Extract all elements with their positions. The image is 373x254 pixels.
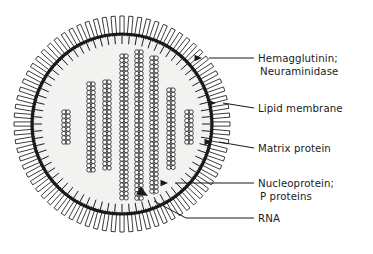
nucleoprotein-bead bbox=[124, 174, 128, 178]
nucleoprotein-bead bbox=[150, 60, 154, 64]
nucleoprotein-bead bbox=[124, 58, 128, 62]
nucleoprotein-bead bbox=[150, 77, 154, 81]
nucleoprotein-bead bbox=[171, 88, 175, 92]
nucleoprotein-bead bbox=[185, 119, 189, 123]
rnp-helix bbox=[150, 55, 159, 195]
nucleoprotein-bead bbox=[107, 84, 111, 88]
nucleoprotein-bead bbox=[139, 97, 143, 101]
nucleoprotein-bead bbox=[91, 129, 95, 133]
figure-page: Hemagglutinin;NeuraminidaseLipid membran… bbox=[0, 0, 373, 254]
nucleoprotein-bead bbox=[135, 63, 139, 67]
nucleoprotein-bead bbox=[107, 136, 111, 140]
nucleoprotein-bead bbox=[124, 187, 128, 191]
nucleoprotein-bead bbox=[87, 125, 91, 129]
nucleoprotein-bead bbox=[139, 54, 143, 58]
nucleoprotein-bead bbox=[124, 106, 128, 110]
nucleoprotein-bead bbox=[139, 123, 143, 127]
nucleoprotein-bead bbox=[139, 50, 143, 54]
rnp-helix bbox=[185, 109, 194, 145]
nucleoprotein-bead bbox=[135, 132, 139, 136]
nucleoprotein-bead bbox=[91, 146, 95, 150]
nucleoprotein-bead bbox=[66, 123, 70, 127]
nucleoprotein-bead bbox=[167, 114, 171, 118]
nucleoprotein-bead bbox=[103, 136, 107, 140]
nucleoprotein-bead bbox=[62, 131, 66, 135]
nucleoprotein-bead bbox=[154, 168, 158, 172]
nucleoprotein-bead bbox=[135, 157, 139, 161]
nucleoprotein-bead bbox=[167, 122, 171, 126]
nucleoprotein-bead bbox=[135, 149, 139, 153]
nucleoprotein-bead bbox=[139, 196, 143, 200]
nucleoprotein-bead bbox=[135, 170, 139, 174]
nucleoprotein-bead bbox=[167, 109, 171, 113]
nucleoprotein-bead bbox=[189, 110, 193, 114]
nucleoprotein-bead bbox=[139, 153, 143, 157]
nucleoprotein-bead bbox=[139, 71, 143, 75]
nucleoprotein-bead bbox=[66, 136, 70, 140]
nucleoprotein-bead bbox=[87, 82, 91, 86]
nucleoprotein-bead bbox=[167, 135, 171, 139]
nucleoprotein-bead bbox=[150, 82, 154, 86]
nucleoprotein-bead bbox=[91, 82, 95, 86]
nucleoprotein-bead bbox=[87, 86, 91, 90]
nucleoprotein-bead bbox=[103, 114, 107, 118]
nucleoprotein-bead bbox=[107, 123, 111, 127]
nucleoprotein-bead bbox=[87, 146, 91, 150]
nucleoprotein-bead bbox=[120, 71, 124, 75]
nucleoprotein-bead bbox=[150, 181, 154, 185]
nucleoprotein-bead bbox=[185, 127, 189, 131]
nucleoprotein-bead bbox=[154, 108, 158, 112]
nucleoprotein-bead bbox=[87, 155, 91, 159]
nucleoprotein-bead bbox=[91, 138, 95, 142]
nucleoprotein-bead bbox=[124, 118, 128, 122]
nucleoprotein-bead bbox=[103, 89, 107, 93]
nucleoprotein-bead bbox=[135, 67, 139, 71]
nucleoprotein-bead bbox=[66, 140, 70, 144]
nucleoprotein-bead bbox=[103, 140, 107, 144]
nucleoprotein-bead bbox=[120, 131, 124, 135]
nucleoprotein-bead bbox=[139, 59, 143, 63]
nucleoprotein-bead bbox=[107, 89, 111, 93]
nucleoprotein-bead bbox=[62, 127, 66, 131]
nucleoprotein-bead bbox=[120, 75, 124, 79]
nucleoprotein-bead bbox=[120, 153, 124, 157]
nucleoprotein-bead bbox=[185, 136, 189, 140]
nucleoprotein-bead bbox=[103, 123, 107, 127]
nucleoprotein-bead bbox=[103, 149, 107, 153]
nucleoprotein-bead bbox=[124, 71, 128, 75]
nucleoprotein-bead bbox=[124, 157, 128, 161]
nucleoprotein-bead bbox=[66, 114, 70, 118]
nucleoprotein-bead bbox=[150, 73, 154, 77]
nucleoprotein-bead bbox=[124, 153, 128, 157]
nucleoprotein-bead bbox=[87, 116, 91, 120]
nucleoprotein-bead bbox=[167, 88, 171, 92]
nucleoprotein-bead bbox=[120, 179, 124, 183]
nucleoprotein-bead bbox=[103, 97, 107, 101]
nucleoprotein-bead bbox=[103, 157, 107, 161]
nucleoprotein-bead bbox=[120, 54, 124, 58]
nucleoprotein-bead bbox=[107, 144, 111, 148]
nucleoprotein-bead bbox=[150, 151, 154, 155]
nucleoprotein-bead bbox=[154, 77, 158, 81]
nucleoprotein-bead bbox=[139, 175, 143, 179]
nucleoprotein-bead bbox=[91, 134, 95, 138]
nucleoprotein-bead bbox=[139, 110, 143, 114]
nucleoprotein-bead bbox=[103, 106, 107, 110]
nucleoprotein-bead bbox=[154, 112, 158, 116]
nucleoprotein-bead bbox=[154, 129, 158, 133]
nucleoprotein-bead bbox=[154, 181, 158, 185]
nucleoprotein-bead bbox=[120, 136, 124, 140]
nucleoprotein-bead bbox=[91, 155, 95, 159]
nucleoprotein-bead bbox=[185, 110, 189, 114]
nucleoprotein-bead bbox=[189, 119, 193, 123]
nucleoprotein-bead bbox=[167, 157, 171, 161]
nucleoprotein-bead bbox=[150, 155, 154, 159]
nucleoprotein-bead bbox=[124, 136, 128, 140]
nucleoprotein-bead bbox=[150, 185, 154, 189]
nucleoprotein-bead bbox=[135, 123, 139, 127]
nucleoprotein-bead bbox=[120, 196, 124, 200]
nucleoprotein-bead bbox=[139, 63, 143, 67]
nucleoprotein-bead bbox=[103, 144, 107, 148]
nucleoprotein-bead bbox=[120, 123, 124, 127]
nucleoprotein-bead bbox=[135, 50, 139, 54]
